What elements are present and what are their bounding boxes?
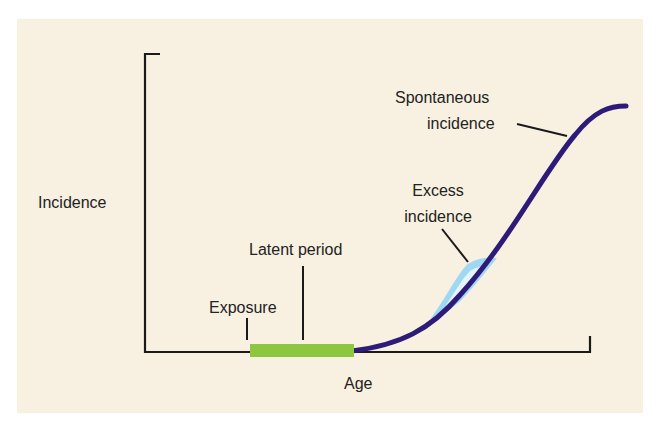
incidence-diagram <box>0 0 656 433</box>
spontaneous-incidence-label-1: Spontaneous <box>395 88 489 107</box>
y-axis-label: Incidence <box>38 193 107 212</box>
excess-incidence-label-1: Excess <box>398 181 478 200</box>
exposure-label: Exposure <box>209 298 277 317</box>
spontaneous-incidence-leader <box>517 124 567 136</box>
spontaneous-incidence-label-2: incidence <box>427 114 495 133</box>
excess-incidence-leader <box>442 229 468 262</box>
latent-period-label: Latent period <box>249 240 342 259</box>
spontaneous-incidence-curve <box>352 106 626 351</box>
excess-incidence-label-2: incidence <box>398 207 478 226</box>
x-axis-label: Age <box>344 374 372 393</box>
latent-period-bar <box>250 344 354 357</box>
